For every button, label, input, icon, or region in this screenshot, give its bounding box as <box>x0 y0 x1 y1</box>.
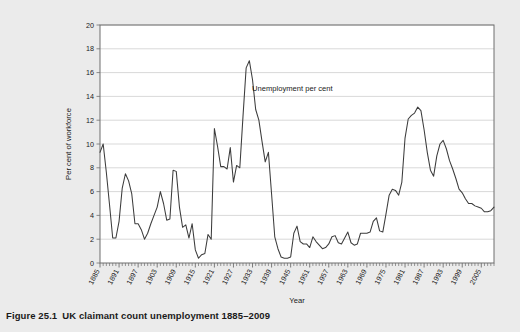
x-axis-tick-label: 1957 <box>315 268 330 286</box>
x-axis-tick-label: 1951 <box>296 268 311 286</box>
figure-caption-text: UK claimant count unemployment 1885–2009 <box>62 310 270 321</box>
y-axis-tick-label: 14 <box>86 92 94 101</box>
figure-container: 02468101214161820 1885189118971903190919… <box>0 0 520 332</box>
x-axis-tick-label: 1939 <box>258 268 273 286</box>
x-axis-tick-label: 1933 <box>239 268 254 286</box>
y-axis-tick-label: 4 <box>90 211 94 220</box>
x-axis-tick-label: 1891 <box>105 268 120 286</box>
x-axis-tick-label: 1981 <box>391 268 406 286</box>
y-axis-tick-label: 0 <box>90 259 94 268</box>
x-axis-tick-label: 1909 <box>163 268 178 286</box>
figure-number: Figure 25.1 <box>6 310 57 321</box>
y-axis-tick-label: 16 <box>86 68 94 77</box>
y-axis-tick-label: 12 <box>86 116 94 125</box>
series-annotation-label: Unemployment per cent <box>252 84 334 93</box>
y-axis-tick-label: 6 <box>90 187 94 196</box>
x-axis-tick-label: 1969 <box>353 268 368 286</box>
y-axis-tick-label: 8 <box>90 163 94 172</box>
x-axis-title: Year <box>289 296 305 305</box>
x-axis-tick-label: 1975 <box>372 268 387 286</box>
x-axis-minor-ticks <box>100 263 494 268</box>
x-axis-tick-label: 1993 <box>429 268 444 286</box>
y-axis-tick-label: 18 <box>86 44 94 53</box>
x-axis-tick-label: 1999 <box>449 268 464 286</box>
x-axis-tick-label: 1885 <box>86 268 101 286</box>
x-axis-tick-label: 1963 <box>334 268 349 286</box>
y-axis-title: Per cent of workforce <box>64 108 73 180</box>
x-axis-tick-label: 1903 <box>144 268 159 286</box>
x-axis-tick-label: 1915 <box>182 268 197 286</box>
x-axis-tick-label: 1927 <box>220 268 235 286</box>
y-axis-tick-label: 20 <box>86 21 94 30</box>
y-axis-ticks <box>97 25 101 263</box>
x-axis-tick-label: 1897 <box>124 268 139 286</box>
y-axis-tick-label: 10 <box>86 140 94 149</box>
x-axis-tick-label: 2005 <box>468 268 483 286</box>
x-axis-tick-labels: 1885189118971903190919151921192719331939… <box>86 268 483 286</box>
x-axis-tick-label: 1921 <box>201 268 216 286</box>
y-axis-tick-labels: 02468101214161820 <box>86 21 94 268</box>
x-axis-tick-label: 1945 <box>277 268 292 286</box>
unemployment-line-chart: 02468101214161820 1885189118971903190919… <box>0 0 520 332</box>
figure-caption: Figure 25.1UK claimant count unemploymen… <box>6 310 516 321</box>
x-axis-tick-label: 1987 <box>410 268 425 286</box>
y-axis-tick-label: 2 <box>90 235 94 244</box>
